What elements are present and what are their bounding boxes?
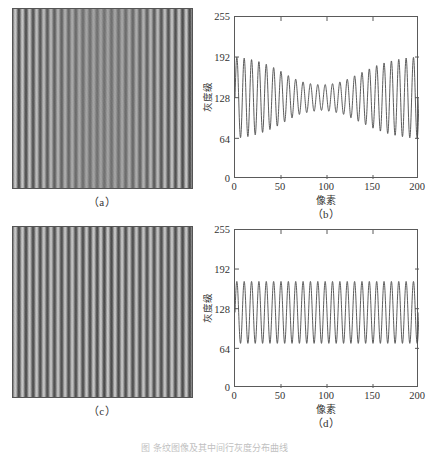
xtick-b-0: 0: [219, 181, 249, 192]
ylabel-b: 灰度级: [200, 73, 214, 121]
plot-area-b: [234, 16, 418, 178]
xtick-d-50: 50: [265, 390, 295, 401]
xtick-d-200: 200: [402, 390, 429, 401]
plot-area-d: [234, 229, 418, 387]
xtick-d-150: 150: [357, 390, 387, 401]
fringe-canvas-c: [13, 227, 192, 397]
figure-caption: 图 条纹图像及其中间行灰度分布曲线: [0, 441, 429, 454]
xtick-b-200: 200: [402, 181, 429, 192]
fringe-image-c: [12, 226, 193, 398]
ytick-b-64: 64: [202, 133, 230, 144]
subcaption-c: （c）: [52, 402, 152, 418]
xtick-b-50: 50: [265, 181, 295, 192]
xtick-b-150: 150: [357, 181, 387, 192]
waveform-b: [235, 17, 419, 179]
ytick-d-192: 192: [202, 264, 230, 275]
ytick-b-255: 255: [202, 11, 230, 22]
ylabel-d: 灰度级: [200, 284, 214, 332]
ytick-d-255: 255: [202, 224, 230, 235]
subcaption-d: （d）: [301, 414, 351, 430]
waveform-d: [235, 230, 419, 388]
fringe-canvas-a: [13, 9, 192, 188]
xtick-d-100: 100: [311, 390, 341, 401]
ytick-b-192: 192: [202, 52, 230, 63]
subcaption-b: （b）: [301, 205, 351, 221]
subcaption-a: （a）: [52, 193, 152, 209]
xtick-b-100: 100: [311, 181, 341, 192]
ytick-d-64: 64: [202, 343, 230, 354]
xtick-d-0: 0: [219, 390, 249, 401]
fringe-image-a: [12, 8, 193, 189]
